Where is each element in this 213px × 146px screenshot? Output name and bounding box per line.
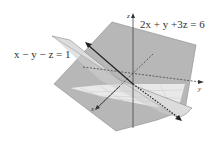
- equation-plane-1: 2x + y +3z = 6: [140, 18, 205, 30]
- z-axis-arrow: [131, 13, 135, 18]
- planes-diagram: z y x 2x + y +3z = 6 x − y − z = 1: [0, 0, 213, 146]
- y-axis-label: y: [197, 85, 202, 93]
- equation-plane-2: x − y − z = 1: [14, 48, 71, 60]
- y-axis-arrow: [198, 80, 204, 84]
- z-axis-label: z: [126, 12, 130, 20]
